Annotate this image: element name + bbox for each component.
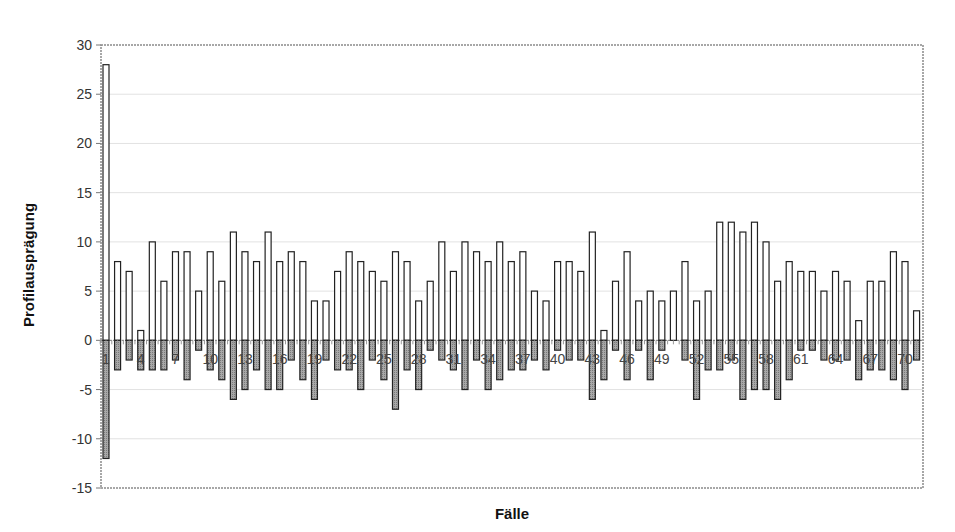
y-tick-label: 5: [84, 283, 92, 299]
y-axis-title: Profilausprägung: [20, 203, 37, 327]
bar-positive: [566, 262, 572, 341]
bar-positive: [103, 65, 109, 341]
bar-positive: [323, 301, 329, 340]
bar-positive: [369, 271, 375, 340]
bar-positive: [705, 291, 711, 340]
bar-positive: [474, 252, 480, 341]
x-tick-label: 10: [202, 351, 218, 367]
bar-positive: [277, 262, 283, 341]
bar-chart: 302520151050-5-10-15 1471013161922252831…: [0, 0, 955, 532]
x-tick-label: 25: [376, 351, 392, 367]
x-tick-label: 31: [446, 351, 462, 367]
y-tick-label: 10: [76, 234, 92, 250]
x-tick-label: 67: [862, 351, 878, 367]
bar-positive: [427, 281, 433, 340]
bar-positive: [914, 311, 920, 341]
bar-positive: [230, 232, 236, 340]
x-tick-label: 19: [307, 351, 323, 367]
bar-positive: [798, 271, 804, 340]
bar-negative: [497, 340, 503, 379]
x-tick-label: 43: [585, 351, 601, 367]
bar-positive: [902, 262, 908, 341]
bar-positive: [879, 281, 885, 340]
bar-negative: [404, 340, 410, 370]
bar-positive: [265, 232, 271, 340]
bar-positive: [856, 321, 862, 341]
x-tick-label: 58: [758, 351, 774, 367]
bar-positive: [161, 281, 167, 340]
bar-positive: [300, 262, 306, 341]
bar-positive: [335, 271, 341, 340]
bar-positive: [404, 262, 410, 341]
bar-positive: [647, 291, 653, 340]
chart-canvas: 302520151050-5-10-15 1471013161922252831…: [0, 0, 955, 532]
bar-positive: [694, 301, 700, 340]
bar-positive: [589, 232, 595, 340]
bar-negative: [751, 340, 757, 389]
bar-positive: [288, 252, 294, 341]
bar-positive: [485, 262, 491, 341]
bar-positive: [728, 222, 734, 340]
bar-negative: [230, 340, 236, 399]
bar-positive: [682, 262, 688, 341]
bar-positive: [613, 281, 619, 340]
bar-positive: [890, 252, 896, 341]
x-tick-label: 1: [102, 351, 110, 367]
y-tick-label: 0: [84, 332, 92, 348]
bar-negative: [786, 340, 792, 379]
bar-positive: [659, 301, 665, 340]
bar-negative: [149, 340, 155, 370]
y-tick-label: 30: [76, 37, 92, 53]
bar-negative: [705, 340, 711, 370]
bar-negative: [589, 340, 595, 399]
bar-negative: [115, 340, 121, 370]
x-tick-label: 70: [897, 351, 913, 367]
bar-negative: [601, 340, 607, 379]
bar-positive: [717, 222, 723, 340]
y-axis-ticks: 302520151050-5-10-15: [72, 37, 101, 496]
bar-negative: [890, 340, 896, 379]
bar-positive: [439, 242, 445, 340]
bar-positive: [497, 242, 503, 340]
x-tick-label: 13: [237, 351, 253, 367]
bar-negative: [879, 340, 885, 370]
bar-positive: [115, 262, 121, 341]
bar-negative: [647, 340, 653, 379]
x-tick-label: 28: [411, 351, 427, 367]
bar-positive: [578, 271, 584, 340]
bar-positive: [416, 301, 422, 340]
x-tick-label: 61: [793, 351, 809, 367]
bar-positive: [358, 262, 364, 341]
bar-negative: [543, 340, 549, 370]
bar-negative: [358, 340, 364, 389]
y-tick-label: 20: [76, 135, 92, 151]
bar-negative: [775, 340, 781, 399]
bar-negative: [254, 340, 260, 370]
x-tick-label: 46: [619, 351, 635, 367]
bar-negative: [856, 340, 862, 379]
y-tick-label: -5: [80, 382, 93, 398]
y-tick-label: -15: [72, 480, 92, 496]
bar-negative: [462, 340, 468, 389]
bar-negative: [161, 340, 167, 370]
bar-positive: [751, 222, 757, 340]
x-tick-label: 40: [550, 351, 566, 367]
bar-positive: [184, 252, 190, 341]
bar-positive: [242, 252, 248, 341]
bar-positive: [254, 262, 260, 341]
x-tick-label: 22: [341, 351, 357, 367]
x-tick-label: 37: [515, 351, 531, 367]
bar-positive: [346, 252, 352, 341]
x-tick-label: 49: [654, 351, 670, 367]
x-tick-label: 64: [828, 351, 844, 367]
bar-negative: [508, 340, 514, 370]
bar-positive: [462, 242, 468, 340]
y-tick-label: 25: [76, 86, 92, 102]
bar-positive: [601, 330, 607, 340]
bar-positive: [172, 252, 178, 341]
bar-positive: [833, 271, 839, 340]
bar-positive: [138, 330, 144, 340]
y-tick-label: 15: [76, 185, 92, 201]
bar-positive: [670, 291, 676, 340]
bar-positive: [149, 242, 155, 340]
